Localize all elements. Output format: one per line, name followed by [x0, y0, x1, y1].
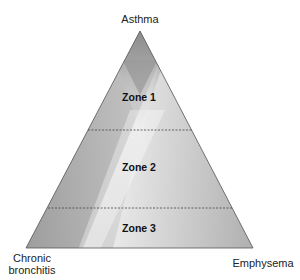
zone-3-label: Zone 3 [109, 222, 169, 234]
vertex-label-chronic-line2: bronchitis [2, 264, 62, 276]
zone-2-label: Zone 2 [109, 161, 169, 173]
vertex-label-asthma: Asthma [110, 13, 170, 25]
zone-1-label: Zone 1 [109, 91, 169, 103]
vertex-label-chronic-bronchitis: Chronic bronchitis [2, 252, 62, 276]
triangle-diagram [0, 0, 300, 280]
vertex-label-emphysema: Emphysema [228, 257, 298, 269]
vertex-label-chronic-line1: Chronic [2, 252, 62, 264]
